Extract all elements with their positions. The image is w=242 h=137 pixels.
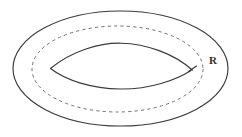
lens-lower-arc: [51, 69, 192, 90]
radius-label-R: R: [209, 55, 217, 66]
hidden-inner-ellipse: [32, 26, 203, 112]
outer-ellipse: [13, 11, 228, 126]
lens-upper-arc: [51, 43, 193, 70]
torus-drawing: [0, 0, 242, 137]
torus-figure: R: [0, 0, 242, 137]
